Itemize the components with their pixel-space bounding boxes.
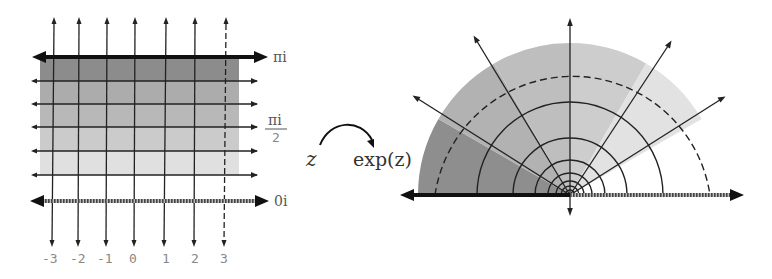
arrow-right-icon — [255, 195, 269, 207]
arrow-right-icon — [254, 51, 268, 63]
tick-label: -1 — [97, 251, 113, 266]
tick-label: -2 — [70, 251, 86, 266]
band-5 — [40, 57, 239, 81]
left-strip-panel: πi πi 2 0i -3 -2 -1 0 1 2 3 — [30, 17, 288, 266]
label-pi-i-over-2-num: πi — [268, 112, 282, 128]
band-3 — [40, 104, 239, 127]
label-pi-i-over-2-den: 2 — [272, 130, 280, 145]
exp-mapping-diagram: πi πi 2 0i -3 -2 -1 0 1 2 3 z exp(z) — [0, 0, 772, 279]
arrowhead-icon — [367, 139, 374, 148]
positive-real-axis — [570, 193, 730, 197]
diagram-canvas: πi πi 2 0i -3 -2 -1 0 1 2 3 z exp(z) — [0, 0, 772, 279]
band-1 — [40, 151, 239, 175]
tick-label: 0 — [129, 251, 137, 266]
arrow-right-icon — [730, 189, 744, 201]
tick-label: -3 — [42, 251, 58, 266]
real-axis-line — [42, 199, 256, 203]
arrow-left-icon — [32, 51, 46, 63]
mapping-arrow-group: z exp(z) — [305, 125, 412, 171]
label-z: z — [305, 147, 317, 171]
band-4 — [40, 81, 239, 104]
arrow-left-icon — [400, 189, 414, 201]
left-small-arrowheads — [31, 79, 37, 178]
label-0-i: 0i — [274, 193, 288, 209]
curved-arrow — [320, 125, 372, 145]
right-halfdisk-panel — [400, 18, 744, 216]
arrow-left-icon — [30, 195, 44, 207]
label-exp-z: exp(z) — [353, 148, 412, 170]
label-pi-i: πi — [273, 49, 287, 65]
tick-label: 1 — [162, 251, 170, 266]
tick-label: 2 — [191, 251, 199, 266]
band-2 — [40, 127, 239, 151]
tick-label: 3 — [220, 251, 228, 266]
